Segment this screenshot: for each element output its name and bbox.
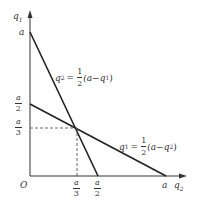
eq-coef-den: 2 (141, 148, 146, 157)
y-axis-label: q1 (13, 12, 23, 23)
equation-q2: q2 = 1 2 (a− q1 ) (55, 67, 113, 88)
eq-sign: = (67, 73, 75, 83)
frac-den: 2 (95, 190, 100, 198)
eq-lhs-sub: 1 (125, 143, 129, 150)
x-axis-sub: 2 (180, 185, 184, 192)
eq-coef-den: 2 (77, 79, 82, 88)
frac-den: 3 (16, 129, 21, 137)
eq-coef: 1 2 (77, 67, 82, 88)
frac-num: a (94, 179, 101, 187)
equation-q1: q1 = 1 2 (a− q2 ) (119, 136, 177, 157)
frac-den: 2 (16, 105, 21, 113)
eq-coef: 1 2 (141, 136, 146, 157)
y-axis-arrow-icon (28, 10, 33, 18)
frac-num: a (15, 94, 22, 102)
eq-coef-num: 1 (77, 67, 82, 76)
x-tick-a: a (162, 181, 167, 190)
eq-rhs-open: (a− (83, 73, 99, 83)
x-axis-label: q2 (174, 181, 184, 192)
x-tick-a-over-3: a 3 (73, 179, 80, 198)
frac-num: a (73, 179, 80, 187)
eq-rhs-close: ) (173, 142, 177, 152)
frac-bar (141, 146, 146, 147)
frac-num: a (15, 118, 22, 126)
y-tick-a: a (19, 28, 24, 37)
y-tick-a-over-2: a 2 (15, 94, 22, 113)
y-tick-a-over-3: a 3 (15, 118, 22, 137)
eq-lhs-sub: 2 (61, 74, 65, 81)
frac-den: 3 (74, 190, 79, 198)
frac-bar (77, 77, 82, 78)
origin-label: O (20, 181, 27, 190)
x-axis-arrow-icon (179, 174, 187, 179)
diagram-canvas (0, 0, 200, 209)
reaction-line-q2 (30, 32, 98, 176)
eq-rhs-close: ) (109, 73, 113, 83)
y-axis-sub: 1 (19, 16, 23, 23)
eq-sign: = (131, 142, 139, 152)
eq-rhs-open: (a− (147, 142, 163, 152)
x-tick-a-over-2: a 2 (94, 179, 101, 198)
eq-coef-num: 1 (141, 136, 146, 145)
